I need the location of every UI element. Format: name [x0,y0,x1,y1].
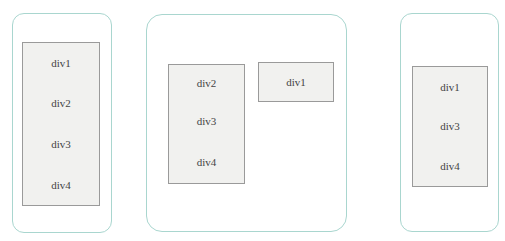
panel-3-div4: div4 [412,146,488,187]
panel-3-div1: div1 [412,66,488,107]
panel-2-div1: div1 [258,62,334,102]
panel-2-div4: div4 [168,141,245,184]
panel-2-div3: div3 [168,101,245,142]
panel-1-div2: div2 [22,83,100,124]
panel-1-div3: div3 [22,123,100,165]
panel-1-div4: div4 [22,164,100,206]
panel-3-div3: div3 [412,106,488,147]
panel-2-div2: div2 [168,64,245,102]
panel-1-div1: div1 [22,42,100,84]
